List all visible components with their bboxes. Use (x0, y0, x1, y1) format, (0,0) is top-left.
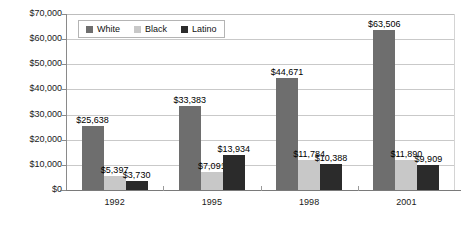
bar-white-1998[interactable] (276, 78, 298, 190)
gridline-60000 (67, 39, 454, 40)
chart-legend: White Black Latino (78, 20, 225, 38)
legend-swatch-latino-icon (181, 26, 188, 33)
bar-black-2001[interactable] (395, 160, 417, 190)
y-tick-mark-50000 (62, 64, 66, 65)
legend-item-white[interactable]: White (86, 25, 120, 34)
x-group-divider-2 (261, 186, 262, 191)
legend-item-latino[interactable]: Latino (181, 25, 217, 34)
y-tick-label-70000: $70,000 (2, 9, 62, 18)
bar-latino-1992[interactable] (126, 181, 148, 190)
y-tick-label-10000: $10,000 (2, 160, 62, 169)
gridline-20000 (67, 140, 454, 141)
gridline-30000 (67, 115, 454, 116)
x-tick-label-1992: 1992 (66, 196, 163, 208)
bar-value-label-white-2001: $63,506 (362, 19, 406, 29)
bar-latino-1998[interactable] (320, 164, 342, 190)
y-tick-label-50000: $50,000 (2, 59, 62, 68)
y-axis: $0$10,000$20,000$30,000$40,000$50,000$60… (0, 0, 62, 229)
x-tick-label-1995: 1995 (163, 196, 260, 208)
bar-value-label-latino-1992: $3,730 (115, 170, 159, 180)
legend-label-white: White (97, 25, 120, 34)
bar-chart: $0$10,000$20,000$30,000$40,000$50,000$60… (0, 0, 473, 229)
y-tick-mark-0 (62, 190, 66, 191)
y-tick-mark-70000 (62, 14, 66, 15)
bar-value-label-white-1998: $44,671 (265, 67, 309, 77)
legend-label-black: Black (145, 25, 167, 34)
bar-value-label-white-1995: $33,383 (168, 95, 212, 105)
legend-item-black[interactable]: Black (134, 25, 167, 34)
bar-black-1998[interactable] (298, 160, 320, 190)
y-tick-mark-40000 (62, 89, 66, 90)
bar-latino-2001[interactable] (417, 165, 439, 190)
bar-black-1995[interactable] (201, 172, 223, 190)
x-group-divider-3 (358, 186, 359, 191)
x-axis: 1992199519982001 (66, 196, 455, 212)
bar-value-label-white-1992: $25,638 (71, 115, 115, 125)
x-group-divider-1 (163, 186, 164, 191)
x-tick-label-1998: 1998 (261, 196, 358, 208)
y-tick-mark-10000 (62, 165, 66, 166)
bar-white-1992[interactable] (82, 126, 104, 190)
bar-white-2001[interactable] (373, 30, 395, 190)
y-tick-label-30000: $30,000 (2, 110, 62, 119)
gridline-50000 (67, 64, 454, 65)
legend-label-latino: Latino (192, 25, 217, 34)
x-tick-label-2001: 2001 (358, 196, 455, 208)
y-tick-mark-20000 (62, 140, 66, 141)
y-tick-mark-30000 (62, 115, 66, 116)
bar-white-1995[interactable] (179, 106, 201, 190)
gridline-70000 (67, 14, 454, 15)
bar-value-label-latino-1998: $10,388 (309, 153, 353, 163)
bar-value-label-latino-1995: $13,934 (212, 144, 256, 154)
bar-latino-1995[interactable] (223, 155, 245, 190)
y-tick-label-60000: $60,000 (2, 34, 62, 43)
y-tick-mark-60000 (62, 39, 66, 40)
legend-swatch-white-icon (86, 26, 93, 33)
legend-swatch-black-icon (134, 26, 141, 33)
y-tick-label-0: $0 (2, 185, 62, 194)
y-tick-label-20000: $20,000 (2, 135, 62, 144)
gridline-40000 (67, 89, 454, 90)
bar-value-label-latino-2001: $9,909 (406, 154, 450, 164)
y-tick-label-40000: $40,000 (2, 84, 62, 93)
